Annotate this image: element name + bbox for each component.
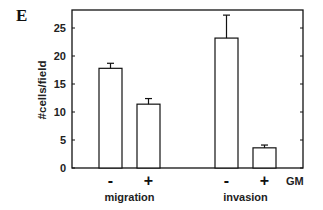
y-tick-label: 5 <box>60 134 66 146</box>
y-tick-label: 15 <box>54 78 66 90</box>
bar-chart: 0510152025#cells/field-+-+GMmigrationinv… <box>0 0 323 210</box>
bar <box>137 104 160 168</box>
x-tick-sign: + <box>260 172 269 189</box>
y-axis-label: #cells/field <box>36 61 48 120</box>
x-tick-sign: - <box>224 172 229 189</box>
x-tick-sign: - <box>108 172 113 189</box>
group-label-migration: migration <box>104 191 154 203</box>
y-tick-label: 25 <box>54 22 66 34</box>
x-tick-sign: + <box>144 172 153 189</box>
treatment-label: GM <box>286 175 304 187</box>
bar <box>215 38 238 168</box>
group-label-invasion: invasion <box>223 191 268 203</box>
bar <box>253 148 276 168</box>
bar <box>99 68 122 168</box>
y-tick-label: 20 <box>54 50 66 62</box>
y-tick-label: 0 <box>60 162 66 174</box>
y-tick-label: 10 <box>54 106 66 118</box>
